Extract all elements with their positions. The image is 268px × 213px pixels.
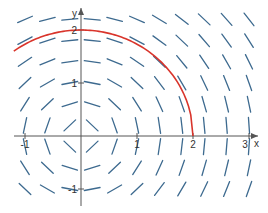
y-tick-label: 1 [71, 78, 77, 89]
slope-segment [19, 184, 31, 195]
slope-segment [42, 99, 54, 110]
x-tick-label: 3 [242, 139, 248, 150]
slope-segment [158, 117, 160, 133]
slope-segment [225, 160, 229, 176]
slope-segment [177, 56, 187, 68]
slope-segment [248, 139, 249, 155]
y-axis-arrow-icon [78, 8, 84, 15]
slope-segment [176, 35, 188, 46]
slope-segment [130, 16, 145, 22]
slope-segment [108, 79, 122, 87]
slope-segment [40, 38, 55, 43]
slope-segment [156, 161, 163, 176]
slope-segment [45, 118, 50, 133]
slope-segment [86, 120, 98, 131]
slope-segments [18, 13, 254, 196]
slope-segment [153, 15, 167, 23]
slope-segment [198, 14, 210, 25]
slope-segment [178, 76, 186, 90]
slope-segment [153, 36, 166, 45]
slope-segment [40, 79, 54, 87]
slope-segment [224, 182, 230, 197]
slope-segment [64, 120, 76, 131]
slope-segment [155, 77, 165, 90]
slope-field-chart: -1123-112xy [0, 0, 268, 213]
slope-segment [107, 17, 122, 21]
slope-segment [18, 57, 31, 66]
slope-segment [181, 117, 183, 133]
slope-segment [21, 161, 30, 175]
slope-segment [245, 55, 252, 69]
slope-segment [248, 117, 249, 133]
slope-segment [135, 118, 138, 134]
slope-segment [40, 185, 54, 193]
slope-segment [131, 184, 143, 195]
slope-segment [18, 37, 32, 44]
slope-segment [179, 97, 184, 112]
x-axis-label: x [254, 138, 259, 149]
slope-segment [175, 15, 188, 25]
slope-segment [246, 181, 251, 196]
slope-segment [224, 76, 230, 91]
slope-segment [201, 76, 208, 90]
slope-segment [246, 75, 251, 90]
slope-segment [84, 40, 100, 42]
slope-segment [107, 38, 122, 43]
slope-segment [158, 139, 160, 155]
x-tick-label: 2 [190, 139, 196, 150]
slope-segment [40, 17, 55, 21]
slope-segment [84, 61, 100, 63]
slope-segment [62, 40, 78, 42]
slope-segment [133, 97, 142, 111]
slope-segment [202, 97, 206, 112]
slope-segment [247, 160, 250, 176]
slope-segment [203, 139, 205, 155]
slope-segment [107, 59, 122, 65]
slope-segment [23, 118, 26, 134]
slope-segment [178, 182, 186, 196]
slope-segment [181, 139, 183, 155]
slope-segment [179, 160, 184, 175]
slope-segment [225, 96, 229, 112]
slope-segment [199, 35, 209, 47]
slope-segment [85, 102, 100, 107]
slope-segment [155, 183, 165, 196]
slope-segment [42, 162, 54, 173]
slope-segment [18, 16, 33, 22]
slope-segment [62, 102, 77, 107]
slope-segment [84, 82, 100, 85]
x-tick-label: 1 [134, 139, 140, 150]
slope-segment [62, 165, 77, 170]
slope-segment [86, 141, 98, 152]
slope-segment [109, 99, 121, 110]
slope-segment [154, 56, 166, 67]
x-tick-label: -1 [21, 139, 30, 150]
slope-segment [247, 96, 250, 112]
slope-segment [202, 160, 206, 175]
slope-segment [108, 185, 122, 193]
slope-segment [131, 78, 143, 89]
y-axis-label: y [72, 8, 77, 19]
slope-segment [130, 37, 144, 44]
slope-segment [19, 78, 31, 89]
y-tick-label: 2 [71, 25, 77, 36]
slope-segment [45, 139, 50, 154]
slope-segment [200, 55, 209, 68]
slope-segment [112, 118, 117, 133]
slope-segment [203, 117, 205, 133]
y-tick-label: -1 [68, 184, 77, 195]
slope-segment [223, 55, 231, 69]
slope-segment [84, 188, 100, 191]
slope-segment [64, 141, 76, 152]
slope-segment [222, 34, 231, 47]
slope-segment [244, 13, 254, 26]
slope-segment [226, 117, 227, 133]
slope-segment [21, 97, 30, 111]
slope-segment [201, 182, 208, 196]
slope-segment [245, 34, 254, 48]
slope-segment [156, 97, 163, 112]
slope-segment [221, 13, 232, 25]
slope-segment [130, 57, 143, 66]
slope-segment [112, 139, 117, 154]
slope-segment [84, 19, 100, 20]
